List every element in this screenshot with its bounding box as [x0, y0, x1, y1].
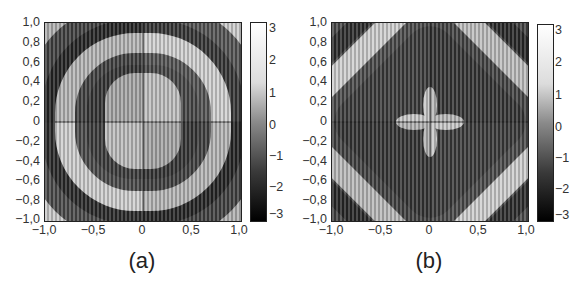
x-tick: 0,5 [176, 224, 206, 237]
y-tick: −0,6 [293, 174, 327, 187]
cb-tick: 0 [269, 119, 276, 132]
cb-tick: −1 [555, 152, 569, 165]
y-tick: 0,4 [6, 75, 40, 88]
y-tick: −0,6 [6, 174, 40, 187]
y-tick: 0,2 [6, 95, 40, 108]
y-tick: 0,6 [6, 56, 40, 69]
cb-tick: −3 [555, 209, 569, 222]
cb-tick: 1 [269, 87, 276, 100]
x-tick: −1,0 [29, 224, 59, 237]
y-tick: −0,4 [293, 155, 327, 168]
y-tick: 0,2 [293, 95, 327, 108]
cb-tick: 1 [555, 89, 562, 102]
y-tick: 0 [293, 115, 327, 128]
cb-tick: 2 [269, 54, 276, 67]
x-tick: 0,5 [463, 224, 493, 237]
y-tick: −0,8 [6, 194, 40, 207]
colorbar-a [250, 22, 267, 222]
x-tick: −0,5 [78, 224, 108, 237]
x-tick: 1,0 [224, 224, 254, 237]
y-tick: 0,8 [6, 36, 40, 49]
x-tick: 0 [414, 224, 444, 237]
y-tick: 0,8 [293, 36, 327, 49]
x-tick: 0 [127, 224, 157, 237]
panel-label-a: (a) [122, 248, 162, 274]
cb-tick: −2 [269, 181, 283, 194]
y-tick: −0,2 [6, 135, 40, 148]
x-tick: −0,5 [365, 224, 395, 237]
y-tick: 0 [6, 115, 40, 128]
cb-tick: −2 [555, 183, 569, 196]
cb-tick: 2 [555, 56, 562, 69]
y-tick: −0,8 [293, 194, 327, 207]
heatmap-plot-a [44, 22, 242, 222]
colorbar-b [537, 24, 554, 222]
y-tick: 1,0 [6, 16, 40, 29]
cb-tick: −3 [269, 208, 283, 221]
y-tick: 0,4 [293, 75, 327, 88]
cb-tick: 3 [269, 22, 276, 35]
cb-tick: 0 [555, 121, 562, 134]
y-tick: −0,4 [6, 155, 40, 168]
y-tick: 0,6 [293, 56, 327, 69]
y-tick: 1,0 [293, 16, 327, 29]
cb-tick: −1 [269, 150, 283, 163]
x-tick: 1,0 [511, 224, 541, 237]
panel-label-b: (b) [409, 248, 449, 274]
x-tick: −1,0 [316, 224, 346, 237]
y-tick: −0,2 [293, 135, 327, 148]
cb-tick: 3 [555, 24, 562, 37]
heatmap-plot-b [331, 22, 529, 222]
